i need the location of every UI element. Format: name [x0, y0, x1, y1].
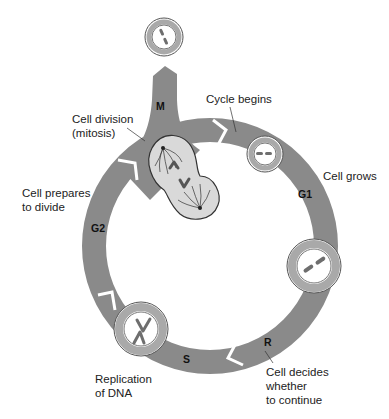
annotation-cell-decides: Cell decides whether to continue — [266, 365, 329, 407]
cell-g1-grown — [287, 239, 341, 293]
phase-label-g2: G2 — [91, 222, 105, 234]
annotation-cell-prepares: Cell prepares to divide — [22, 186, 90, 214]
phase-label-m: M — [156, 100, 165, 112]
phase-label-r: R — [264, 336, 272, 348]
annotation-cell-grows: Cell grows — [323, 169, 377, 183]
phase-label-g1: G1 — [298, 188, 312, 200]
cell-daughter-top — [145, 18, 183, 56]
cell-g1-early — [247, 136, 283, 172]
phase-label-s: S — [183, 353, 190, 365]
cell-s-phase — [114, 302, 168, 356]
dividing-cell — [149, 135, 219, 219]
annotation-replication: Replication of DNA — [95, 372, 152, 400]
annotation-cycle-begins: Cycle begins — [206, 92, 272, 106]
annotation-cell-division: Cell division (mitosis) — [72, 112, 133, 140]
